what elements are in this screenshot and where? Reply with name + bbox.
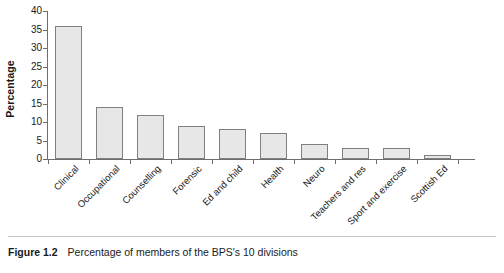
y-tick-mark	[43, 122, 47, 123]
y-tick-mark	[43, 30, 47, 31]
y-tick-label: 0	[18, 154, 42, 164]
figure: Percentage 0510152025303540 ClinicalOccu…	[0, 0, 504, 273]
x-tick-mark	[130, 160, 131, 164]
x-tick-mark	[335, 160, 336, 164]
y-tick-mark	[43, 141, 47, 142]
bar	[55, 26, 82, 159]
figure-caption-text: Percentage of members of the BPS's 10 di…	[68, 246, 298, 258]
y-tick-label: 35	[18, 25, 42, 35]
y-axis-title: Percentage	[2, 34, 18, 144]
figure-caption: Figure 1.2Percentage of members of the B…	[8, 245, 500, 259]
x-tick-mark	[417, 160, 418, 164]
y-tick-label: 15	[18, 99, 42, 109]
y-tick-mark	[43, 104, 47, 105]
y-tick-mark	[43, 159, 47, 160]
y-tick-label: 5	[18, 136, 42, 146]
y-tick-mark	[43, 85, 47, 86]
y-tick-label: 30	[18, 43, 42, 53]
x-tick-mark	[212, 160, 213, 164]
bar-chart: Percentage 0510152025303540 ClinicalOccu…	[0, 0, 504, 232]
x-tick-mark	[376, 160, 377, 164]
y-tick-mark	[43, 48, 47, 49]
y-axis-tick-labels: 0510152025303540	[18, 0, 42, 160]
y-tick-label: 10	[18, 117, 42, 127]
x-tick-mark	[294, 160, 295, 164]
x-tick-mark	[89, 160, 90, 164]
y-tick-label: 40	[18, 6, 42, 16]
x-axis-tick-labels: ClinicalOccupationalCounsellingForensicE…	[48, 163, 504, 233]
x-tick-mark	[458, 160, 459, 164]
y-axis-title-text: Percentage	[4, 60, 16, 118]
y-tick-label: 20	[18, 80, 42, 90]
y-tick-mark	[43, 11, 47, 12]
x-tick-mark	[48, 160, 49, 164]
caption-divider	[8, 236, 496, 237]
x-tick-mark	[171, 160, 172, 164]
figure-number: Figure 1.2	[8, 246, 58, 258]
y-tick-label: 25	[18, 62, 42, 72]
y-tick-mark	[43, 67, 47, 68]
x-tick-mark	[253, 160, 254, 164]
